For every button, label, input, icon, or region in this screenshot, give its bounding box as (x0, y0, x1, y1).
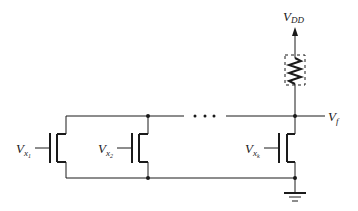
vf-label: Vf (328, 109, 340, 126)
schematic: VDD Vf Vx1 Vx2 Vxk (0, 0, 358, 211)
transistor-1 (35, 116, 66, 178)
vx2-label: Vx2 (98, 141, 113, 159)
transistor-k (264, 116, 295, 178)
ground-symbol (284, 178, 306, 201)
junction-dots (146, 114, 297, 180)
vx1-label: Vx1 (16, 141, 31, 159)
load-resistor (285, 34, 305, 116)
transistor-2 (117, 116, 148, 178)
ellipsis-dots (194, 115, 216, 118)
vdd-label: VDD (283, 9, 304, 25)
vdd-arrow-icon (292, 27, 298, 36)
circuit-diagram: VDD Vf Vx1 Vx2 Vxk (0, 0, 358, 211)
vxk-label: Vxk (245, 141, 260, 159)
